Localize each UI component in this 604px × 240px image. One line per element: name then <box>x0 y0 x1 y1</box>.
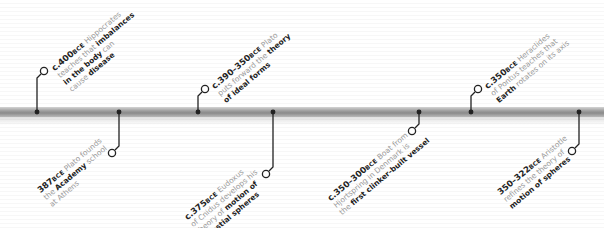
stem-plato-forms <box>196 85 208 113</box>
stem-hippocrates <box>35 67 47 113</box>
stem-eudoxus <box>262 110 274 177</box>
stem-heraclides <box>469 85 481 113</box>
stem-plato-academy <box>108 110 120 156</box>
